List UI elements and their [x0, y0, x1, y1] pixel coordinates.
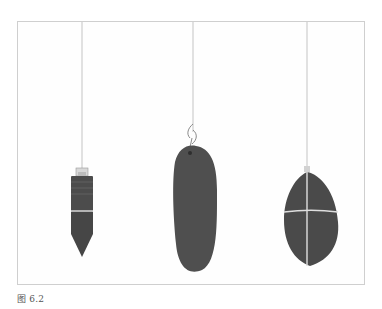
figure-caption: 图 6.2: [17, 292, 44, 305]
pendulums-illustration: [18, 22, 366, 286]
oval-stone-pendulum: [173, 22, 217, 272]
figure-frame: [17, 21, 365, 285]
metal-bullet-pendulum: [71, 22, 93, 257]
wrapped-stone-pendulum: [284, 22, 338, 266]
